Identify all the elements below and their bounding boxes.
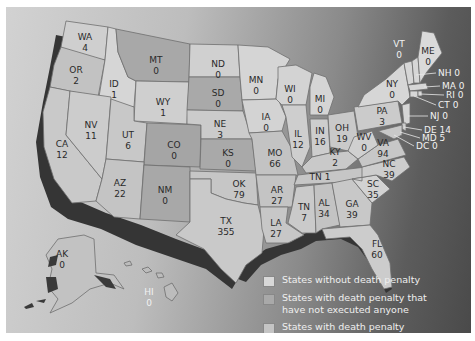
- legend-label: States without death penalty: [282, 274, 420, 286]
- label-wi-value: 0: [287, 95, 293, 105]
- label-mi-value: 0: [317, 105, 323, 115]
- label-ut-abbr: UT: [122, 130, 135, 140]
- legend-swatch-dark: [263, 323, 275, 333]
- label-ms-value: 7: [301, 213, 307, 223]
- state-ny[interactable]: [358, 63, 410, 107]
- label-nv-value: 11: [85, 131, 96, 141]
- state-ri[interactable]: [418, 91, 422, 96]
- label-pa-abbr: PA: [376, 106, 388, 116]
- label-il-value: 12: [292, 140, 303, 150]
- label-id-value: 1: [111, 90, 117, 100]
- label-mi-abbr: MI: [315, 94, 325, 104]
- label-il-abbr: IL: [294, 129, 302, 139]
- label-ca-value: 12: [56, 150, 67, 160]
- legend-swatch-light: [263, 276, 275, 287]
- callout-line-ri: [420, 94, 444, 95]
- label-fl-value: 60: [371, 250, 383, 260]
- label-dc: DC 0: [416, 141, 438, 151]
- legend-label-line2: have not executed anyone: [282, 304, 409, 315]
- label-tx-value: 355: [217, 227, 234, 237]
- label-ak-abbr: AK: [56, 249, 69, 259]
- label-ky-value: 2: [332, 158, 338, 168]
- callout-line-ct: [414, 96, 436, 105]
- label-al-abbr: AL: [318, 198, 329, 208]
- label-la-value: 27: [270, 229, 281, 239]
- label-ri: RI 0: [446, 90, 464, 100]
- label-sd-abbr: SD: [212, 88, 225, 98]
- label-in-value: 16: [314, 137, 326, 147]
- callout-line-de: [404, 127, 422, 130]
- label-sd-value: 0: [215, 99, 221, 109]
- legend-swatch-medium: [263, 294, 275, 305]
- label-az-value: 22: [114, 189, 125, 199]
- label-mt-abbr: MT: [149, 55, 163, 65]
- state-ak[interactable]: [46, 235, 124, 313]
- label-co-abbr: CO: [167, 140, 180, 150]
- label-nv-abbr: NV: [85, 120, 99, 130]
- legend-item-no-executions: States with death penalty that have not …: [263, 292, 468, 316]
- label-ne-abbr: NE: [214, 119, 227, 129]
- legend-label: States with death penalty that have not …: [282, 292, 427, 316]
- label-ks-abbr: KS: [222, 148, 234, 158]
- label-ky-abbr: KY: [329, 147, 341, 157]
- label-vt-abbr: VT: [393, 39, 405, 49]
- label-me-value: 0: [425, 57, 431, 67]
- label-oh-value: 19: [336, 134, 348, 144]
- label-co-value: 0: [171, 151, 177, 161]
- label-wa-value: 4: [82, 43, 88, 53]
- label-nc-value: 39: [383, 170, 395, 180]
- label-va-value: 94: [377, 149, 389, 159]
- label-hi-value: 0: [146, 298, 152, 308]
- label-ok-value: 79: [233, 190, 245, 200]
- label-nm-value: 0: [162, 196, 168, 206]
- label-mt-value: 0: [153, 66, 159, 76]
- label-ga-abbr: GA: [345, 199, 359, 209]
- state-nj[interactable]: [402, 103, 410, 125]
- legend-label: States with death penalty: [282, 321, 404, 333]
- legend-label-line1: States with death penalty that: [282, 292, 427, 303]
- legend-item-death-penalty: States with death penalty: [263, 321, 468, 333]
- label-fl-abbr: FL: [372, 239, 382, 249]
- label-ga-value: 39: [346, 210, 358, 220]
- label-ny-value: 0: [389, 90, 395, 100]
- label-ks-value: 0: [225, 159, 231, 169]
- label-az-abbr: AZ: [114, 178, 126, 188]
- legend-item-no-death-penalty: States without death penalty: [263, 274, 468, 287]
- label-tn: TN 1: [309, 172, 331, 182]
- map-legend: States without death penalty States with…: [263, 274, 468, 333]
- label-or-abbr: OR: [69, 65, 82, 75]
- label-nc-abbr: NC: [382, 159, 395, 169]
- label-wv-value: 0: [361, 143, 367, 153]
- map-frame: WA 4 OR 2 CA 12 ID 1 NV 11 MT 0 WY 1 UT …: [6, 7, 471, 333]
- label-va-abbr: VA: [377, 138, 390, 148]
- label-ct: CT 0: [438, 100, 459, 110]
- label-ca-abbr: CA: [56, 139, 69, 149]
- label-ar-value: 27: [271, 196, 282, 206]
- label-wy-value: 1: [160, 108, 166, 118]
- label-pa-value: 3: [379, 117, 385, 127]
- label-or-value: 2: [73, 76, 79, 86]
- label-wi-abbr: WI: [284, 84, 296, 94]
- label-me-abbr: ME: [421, 46, 435, 56]
- label-ia-abbr: IA: [262, 112, 272, 122]
- label-nd-value: 0: [215, 70, 221, 80]
- label-ne-value: 3: [217, 130, 223, 140]
- label-ar-abbr: AR: [271, 185, 283, 195]
- label-tx-abbr: TX: [219, 216, 232, 226]
- label-sc-value: 35: [367, 190, 378, 200]
- label-nj: NJ 0: [430, 111, 448, 121]
- callout-line-md: [400, 132, 420, 138]
- label-nh: NH 0: [438, 68, 460, 78]
- label-mn-abbr: MN: [249, 75, 264, 85]
- label-ny-abbr: NY: [386, 79, 399, 89]
- label-hi-abbr: HI: [144, 287, 153, 297]
- northeast-callout-labels: NH 0 MA 0 RI 0 CT 0 NJ 0 DE 14 MD 5 DC 0: [416, 68, 465, 151]
- label-nd-abbr: ND: [211, 59, 225, 69]
- label-wv-abbr: WV: [356, 132, 372, 142]
- label-ms-abbr: TN: [297, 202, 310, 212]
- label-ut-value: 6: [125, 141, 131, 151]
- label-mn-value: 0: [253, 86, 259, 96]
- label-ok-abbr: OK: [233, 179, 247, 189]
- label-mo-abbr: MO: [268, 148, 283, 158]
- label-nm-abbr: NM: [158, 185, 173, 195]
